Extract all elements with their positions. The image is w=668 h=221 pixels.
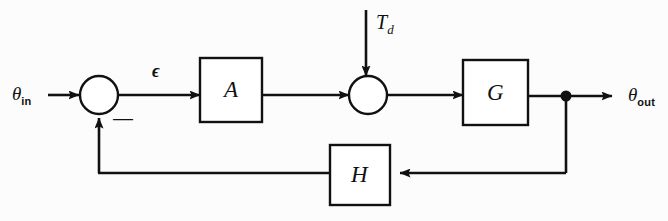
theta-in-label: θin [12, 84, 32, 107]
feedback-block-label: H [351, 163, 368, 186]
block-diagram-canvas: θin ϵ — A Td G H θout [0, 0, 668, 221]
disturbance-symbol: T [376, 11, 387, 33]
theta-in-subscript: in [21, 95, 31, 107]
amplifier-block-label: A [224, 78, 238, 101]
theta-out-label: θout [628, 85, 655, 108]
disturbance-summing-junction [349, 76, 387, 114]
theta-out-symbol: θ [628, 84, 637, 105]
disturbance-label: Td [376, 12, 394, 36]
diagram-svg [0, 0, 668, 221]
error-label: ϵ [152, 62, 160, 80]
output-takeoff-node [561, 91, 572, 102]
disturbance-subscript: d [387, 22, 394, 37]
plant-block-label: G [487, 81, 504, 104]
theta-out-subscript: out [637, 96, 655, 108]
negative-sign-label: — [113, 108, 133, 128]
theta-in-symbol: θ [12, 83, 21, 104]
